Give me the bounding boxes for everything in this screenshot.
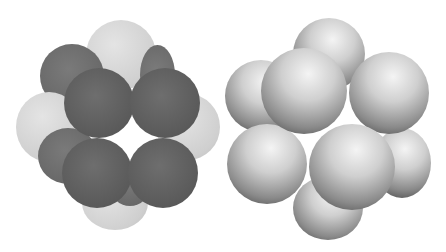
sphere — [62, 138, 132, 208]
flat-shaded-cluster — [0, 0, 223, 252]
sphere — [349, 52, 429, 134]
sphere — [128, 138, 198, 208]
sphere — [227, 124, 307, 204]
shaded-cluster — [223, 0, 446, 252]
sphere — [64, 68, 134, 138]
sphere — [261, 48, 347, 134]
sphere — [309, 124, 395, 210]
sphere — [130, 68, 200, 138]
